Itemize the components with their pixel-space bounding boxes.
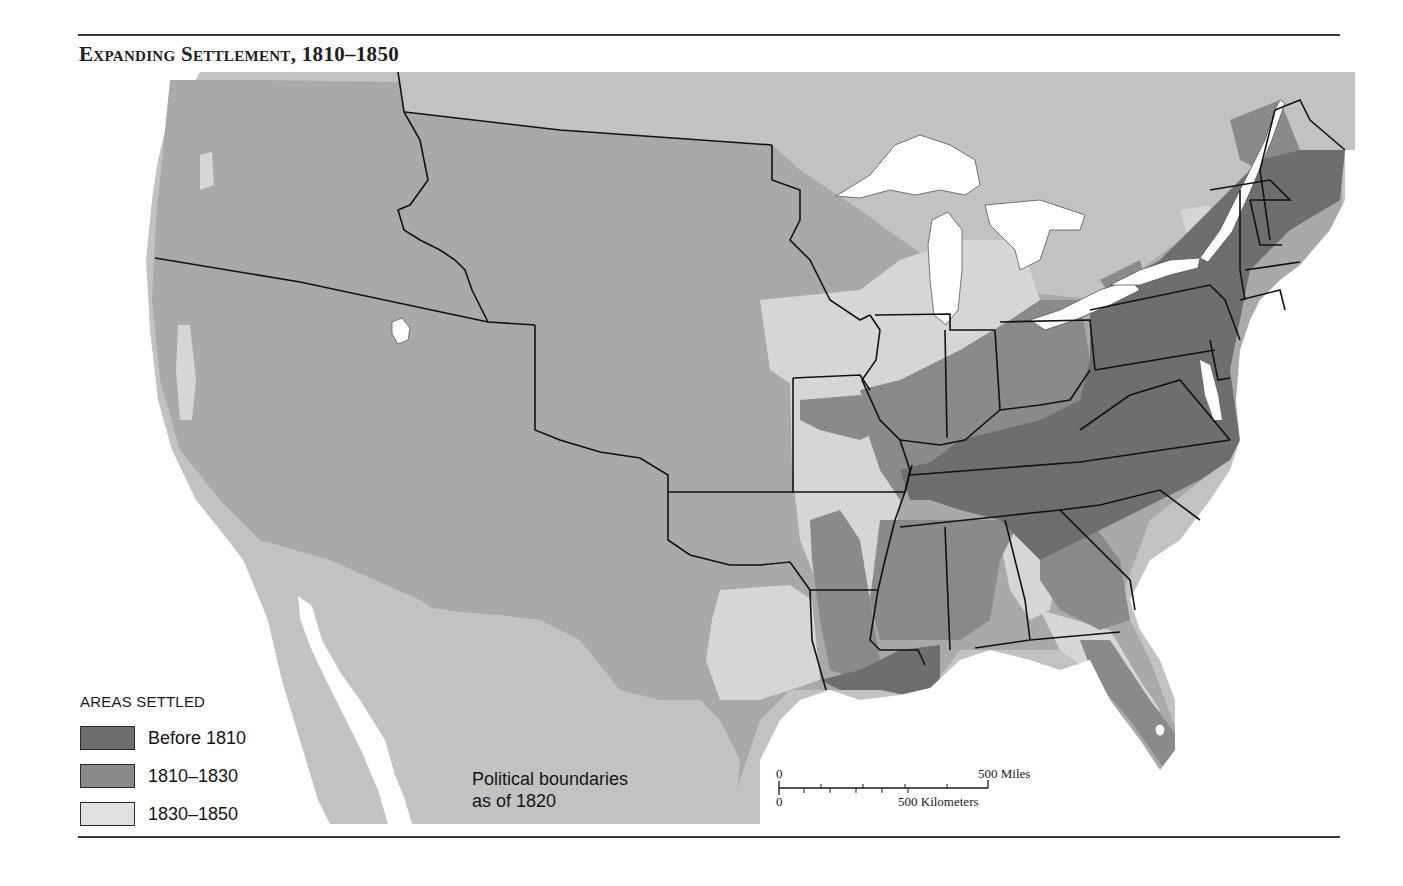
legend-title: AREAS SETTLED xyxy=(80,693,246,710)
legend-label: 1830–1850 xyxy=(148,804,238,825)
lake-okeechobee xyxy=(1155,724,1165,736)
boundaries-note: Political boundaries as of 1820 xyxy=(472,768,628,812)
swatch-1810-1830 xyxy=(80,764,135,788)
legend-label: 1810–1830 xyxy=(148,766,238,787)
note-line-2: as of 1820 xyxy=(472,790,628,812)
note-line-1: Political boundaries xyxy=(472,768,628,790)
legend: AREAS SETTLED Before 1810 1810–1830 1830… xyxy=(80,693,246,833)
scale-km-zero: 0 xyxy=(776,794,783,810)
swatch-1830-1850 xyxy=(80,802,135,826)
swatch-before-1810 xyxy=(80,726,135,750)
scale-bar: 0 500 Miles 0 500 Kilometers xyxy=(773,766,1053,816)
scale-km-label: 500 Kilometers xyxy=(898,794,979,810)
lake-michigan xyxy=(928,212,962,325)
bottom-rule xyxy=(78,836,1340,838)
legend-label: Before 1810 xyxy=(148,728,246,749)
legend-item-1830-1850: 1830–1850 xyxy=(80,795,246,833)
legend-item-1810-1830: 1810–1830 xyxy=(80,757,246,795)
legend-item-before-1810: Before 1810 xyxy=(80,719,246,757)
